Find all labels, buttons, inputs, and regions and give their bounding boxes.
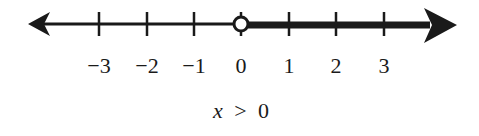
tick-label: 2	[331, 53, 342, 78]
caption-value: 0	[258, 98, 269, 123]
inequality-caption: x > 0	[212, 98, 269, 123]
tick-label: −1	[182, 53, 205, 78]
caption-variable: x	[212, 98, 223, 123]
open-circle-icon	[234, 17, 248, 31]
number-line-diagram: −3 −2 −1 0 1 2 3 x > 0	[0, 0, 479, 136]
tick-labels: −3 −2 −1 0 1 2 3	[87, 53, 389, 78]
tick-label: 3	[379, 53, 390, 78]
tick-label: −2	[135, 53, 158, 78]
tick-label: 0	[236, 53, 247, 78]
tick-label: 1	[284, 53, 295, 78]
tick-label: −3	[87, 53, 110, 78]
caption-operator: >	[234, 98, 246, 123]
